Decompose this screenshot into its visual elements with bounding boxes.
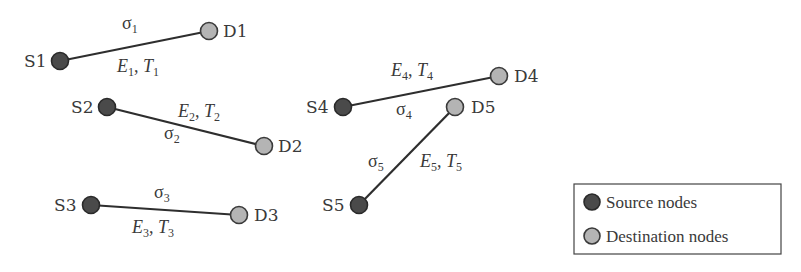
legend: Source nodes Destination nodes	[574, 184, 781, 254]
energy-time-label-4: E4, T4	[390, 60, 433, 83]
legend-source-icon	[584, 194, 600, 210]
source-label-s4: S4	[306, 97, 328, 117]
destination-node-d3	[231, 207, 248, 224]
sigma-label-4: σ4	[396, 99, 412, 122]
source-node-s2	[99, 99, 116, 116]
destination-label-d3: D3	[254, 205, 278, 225]
link-4: S4 D4 E4, T4 σ4	[306, 60, 538, 122]
source-node-s4	[335, 99, 352, 116]
energy-time-label-5: E5, T5	[419, 151, 462, 174]
energy-time-label-2: E2, T2	[177, 101, 220, 124]
legend-destination-icon	[584, 228, 600, 244]
source-node-s1	[52, 53, 69, 70]
sigma-label-1: σ1	[122, 13, 138, 36]
sigma-label-2: σ2	[164, 123, 180, 146]
source-node-s3	[83, 197, 100, 214]
edge-s3-d3	[91, 205, 239, 215]
destination-label-d1: D1	[223, 21, 247, 41]
legend-source-label: Source nodes	[606, 193, 697, 212]
destination-node-d2	[256, 138, 273, 155]
sigma-label-5: σ5	[368, 151, 384, 174]
link-2: S2 D2 E2, T2 σ2	[71, 97, 302, 156]
destination-label-d4: D4	[514, 66, 538, 86]
source-label-s3: S3	[54, 195, 76, 215]
destination-node-d4	[491, 68, 508, 85]
destination-label-d5: D5	[471, 97, 495, 117]
energy-time-label-1: E1, T1	[116, 56, 159, 79]
destination-label-d2: D2	[278, 136, 302, 156]
source-label-s1: S1	[24, 51, 46, 71]
source-label-s5: S5	[322, 195, 344, 215]
network-diagram: S1 D1 σ1 E1, T1 S2 D2 E2, T2 σ2 S3 D3 σ3…	[0, 0, 801, 272]
sigma-label-3: σ3	[154, 182, 170, 205]
link-3: S3 D3 σ3 E3, T3	[54, 182, 278, 240]
destination-node-d5	[447, 99, 464, 116]
legend-destination-label: Destination nodes	[606, 227, 728, 246]
link-1: S1 D1 σ1 E1, T1	[24, 13, 247, 79]
energy-time-label-3: E3, T3	[131, 217, 174, 240]
destination-node-d1	[201, 23, 218, 40]
source-label-s2: S2	[71, 97, 93, 117]
source-node-s5	[351, 197, 368, 214]
